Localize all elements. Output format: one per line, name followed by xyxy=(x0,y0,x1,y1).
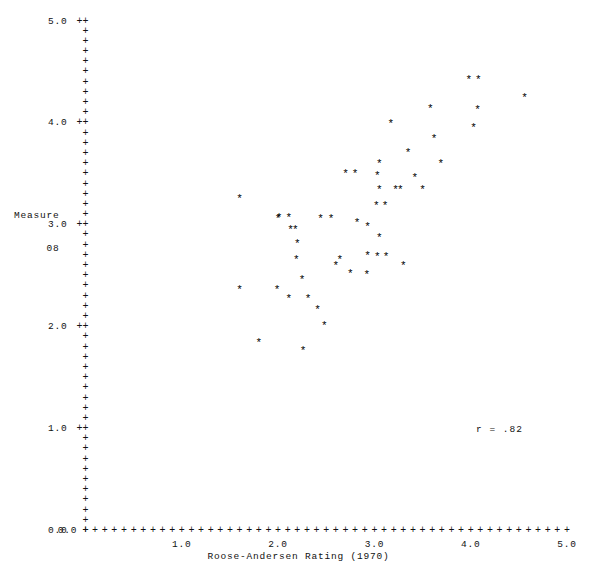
y-axis-tick: + xyxy=(81,292,91,302)
y-axis-tick: + xyxy=(81,88,91,98)
x-axis-tick: + xyxy=(466,526,476,536)
data-point: * xyxy=(387,119,395,130)
y-axis-tick: + xyxy=(81,404,91,414)
y-axis-tick: + xyxy=(81,343,91,353)
x-axis-tick: + xyxy=(321,526,331,536)
y-axis-tick: + xyxy=(81,332,91,342)
data-point: * xyxy=(332,261,340,272)
data-point: * xyxy=(353,218,361,229)
x-axis-tick: + xyxy=(312,526,322,536)
x-axis-tick: + xyxy=(562,526,572,536)
y-axis-tick: + xyxy=(81,465,91,475)
y-axis-tick: + xyxy=(81,180,91,190)
x-axis-tick: + xyxy=(186,526,196,536)
x-axis-tick: + xyxy=(379,526,389,536)
data-point: * xyxy=(342,169,350,180)
x-axis-tick: + xyxy=(369,526,379,536)
y-axis-tick: + xyxy=(81,37,91,47)
x-axis-tick: + xyxy=(504,526,514,536)
data-point: * xyxy=(521,93,529,104)
x-axis-tick: + xyxy=(302,526,312,536)
x-axis-tick: + xyxy=(235,526,245,536)
data-point: * xyxy=(373,171,381,182)
y-axis-tick: + xyxy=(81,506,91,516)
data-point: * xyxy=(299,346,307,357)
x-axis-tick: + xyxy=(206,526,216,536)
x-axis-tick: + xyxy=(215,526,225,536)
x-axis-tick: + xyxy=(427,526,437,536)
data-point: * xyxy=(287,225,295,236)
y-tick-label: 1.0 xyxy=(10,424,68,434)
data-point: * xyxy=(372,201,380,212)
data-point: * xyxy=(363,270,371,281)
y-axis-tick: + xyxy=(81,261,91,271)
x-axis-tick: + xyxy=(418,526,428,536)
y-axis-tick: + xyxy=(81,159,91,169)
y-axis-tick: + xyxy=(81,47,91,57)
x-axis-tick: + xyxy=(523,526,533,536)
data-point: * xyxy=(304,294,312,305)
x-axis-tick: + xyxy=(514,526,524,536)
data-point: * xyxy=(465,75,473,86)
x-axis-tick: + xyxy=(100,526,110,536)
y-axis-tick: + xyxy=(81,149,91,159)
data-point: * xyxy=(316,214,324,225)
y-axis-tick: + xyxy=(81,190,91,200)
x-axis-tick: + xyxy=(109,526,119,536)
data-point: * xyxy=(470,123,478,134)
y-axis-tick: + xyxy=(81,363,91,373)
data-point: * xyxy=(236,285,244,296)
y-axis-tick: + xyxy=(81,475,91,485)
x-tick-label: 0.0 xyxy=(48,526,88,536)
x-axis-tick: + xyxy=(177,526,187,536)
x-axis-tick: + xyxy=(273,526,283,536)
x-axis-tick: + xyxy=(167,526,177,536)
y-tick-label: 5.0 xyxy=(10,17,68,27)
x-axis-title: Roose-Andersen Rating (1970) xyxy=(0,551,597,563)
x-axis-tick: + xyxy=(129,526,139,536)
data-point: * xyxy=(336,255,344,266)
x-axis-tick: + xyxy=(138,526,148,536)
y-axis-tick: + xyxy=(81,281,91,291)
data-point: * xyxy=(474,75,482,86)
data-point: * xyxy=(275,213,283,224)
y-axis-tick: + xyxy=(81,271,91,281)
data-point: * xyxy=(382,252,390,263)
y-axis-tick: + xyxy=(81,129,91,139)
data-point: * xyxy=(292,255,300,266)
y-axis-major-tick: + xyxy=(75,17,85,27)
y-axis-tick: + xyxy=(81,383,91,393)
y-axis-tick: + xyxy=(81,394,91,404)
data-point: * xyxy=(291,225,299,236)
x-axis-tick: + xyxy=(456,526,466,536)
y-axis-tick: + xyxy=(81,78,91,88)
y-axis-tick: + xyxy=(81,353,91,363)
y-axis-tick: + xyxy=(81,455,91,465)
x-axis-tick: + xyxy=(331,526,341,536)
y-axis-major-tick: + xyxy=(75,322,85,332)
data-point: * xyxy=(375,159,383,170)
data-point: * xyxy=(381,201,389,212)
y-tick-label: 4.0 xyxy=(10,118,68,128)
scatter-plot: ++++++++++++++++++++++++++++++++++++++++… xyxy=(0,0,597,574)
data-point: * xyxy=(273,285,281,296)
x-axis-tick: + xyxy=(292,526,302,536)
data-point: * xyxy=(430,134,438,145)
y-axis-tick: + xyxy=(81,302,91,312)
x-axis-tick: + xyxy=(350,526,360,536)
data-point: * xyxy=(373,252,381,263)
data-point: * xyxy=(473,105,481,116)
x-axis-tick: + xyxy=(408,526,418,536)
y-axis-tick: + xyxy=(81,200,91,210)
x-axis-tick: + xyxy=(389,526,399,536)
x-axis-tick: + xyxy=(119,526,129,536)
y-axis-tick: + xyxy=(81,67,91,77)
data-point: * xyxy=(399,261,407,272)
x-axis-tick: + xyxy=(90,526,100,536)
y-axis-tick: + xyxy=(81,139,91,149)
y-axis-title-line2: 08 xyxy=(14,243,92,255)
y-axis-tick: + xyxy=(81,444,91,454)
x-axis-tick: + xyxy=(475,526,485,536)
y-tick-label: 2.0 xyxy=(10,322,68,332)
x-axis-tick: + xyxy=(398,526,408,536)
